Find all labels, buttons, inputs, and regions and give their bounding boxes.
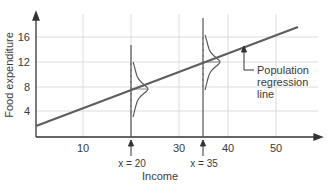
x-tick-50: 50 xyxy=(270,142,282,154)
marker-label-x35: x = 35 xyxy=(190,158,218,169)
regression-chart: 16 12 8 4 10 30 40 50 Food expenditure I… xyxy=(0,0,331,186)
normal-curves xyxy=(131,35,220,117)
annotation-line2: regression xyxy=(257,76,308,88)
y-tick-16: 16 xyxy=(18,31,30,43)
y-tick-labels: 16 12 8 4 xyxy=(18,31,30,117)
x-tick-30: 30 xyxy=(173,142,185,154)
x-markers xyxy=(129,140,206,156)
x-tick-10: 10 xyxy=(77,142,89,154)
y-axis-title: Food expenditure xyxy=(3,32,15,118)
annotation-line1: Population xyxy=(257,64,309,76)
annotation-text: Population regression line xyxy=(257,64,309,100)
y-tick-4: 4 xyxy=(24,105,30,117)
x-axis-title: Income xyxy=(142,170,178,182)
x-tick-labels: 10 30 40 50 xyxy=(77,142,282,154)
x-tick-40: 40 xyxy=(222,142,234,154)
y-tick-12: 12 xyxy=(18,56,30,68)
marker-arrow-x35-icon xyxy=(201,140,206,146)
x-axis-arrow-icon xyxy=(314,134,322,140)
marker-label-x20: x = 20 xyxy=(118,158,146,169)
annotation-pointer xyxy=(242,46,255,70)
dot-points xyxy=(130,37,204,113)
marker-arrow-x20-icon xyxy=(129,140,134,146)
y-tick-8: 8 xyxy=(24,81,30,93)
annotation-line3: line xyxy=(257,88,274,100)
y-axis-arrow-icon xyxy=(33,12,39,20)
